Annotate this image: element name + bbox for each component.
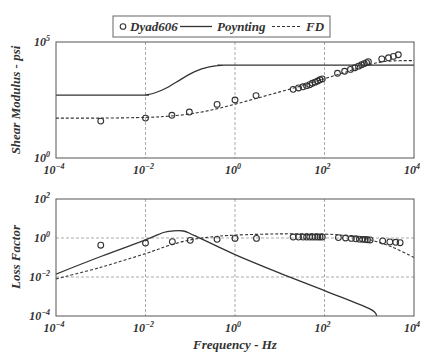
poynting-curve bbox=[56, 231, 377, 316]
x-tick-label: 10−2 bbox=[133, 162, 154, 177]
x-tick-labels: 10−410−2100102104 bbox=[44, 162, 420, 177]
legend-label-dyad606: Dyad606 bbox=[129, 19, 178, 34]
x-tick-label: 10−4 bbox=[44, 320, 65, 335]
x-tick-label: 104 bbox=[404, 320, 420, 335]
y-tick-label: 100 bbox=[34, 230, 50, 245]
data-point-marker bbox=[98, 118, 104, 124]
y-tick-label: 102 bbox=[34, 191, 50, 206]
y-tick-label: 105 bbox=[34, 34, 50, 49]
legend: Dyad606 Poynting FD bbox=[113, 16, 330, 37]
data-point-marker bbox=[214, 102, 220, 108]
y-axis-title: Loss Factor bbox=[8, 224, 23, 290]
data-point-marker bbox=[379, 56, 385, 62]
x-tick-label: 10−2 bbox=[133, 320, 154, 335]
data-point-marker bbox=[98, 242, 104, 248]
data-point-marker bbox=[186, 109, 192, 115]
grid-lines bbox=[146, 42, 325, 158]
figure: Dyad606 Poynting FD 105100 10−410−210010… bbox=[0, 0, 440, 364]
data-point-marker bbox=[169, 112, 175, 118]
x-tick-label: 104 bbox=[404, 162, 420, 177]
data-point-marker bbox=[387, 239, 393, 245]
y-tick-label: 10−2 bbox=[29, 269, 50, 284]
x-tick-label: 100 bbox=[225, 320, 241, 335]
x-tick-label: 102 bbox=[315, 162, 331, 177]
x-tick-label: 100 bbox=[225, 162, 241, 177]
data-point-marker bbox=[253, 93, 259, 99]
grid-lines bbox=[56, 199, 414, 316]
data-point-marker bbox=[335, 70, 341, 76]
curves bbox=[56, 231, 414, 316]
x-tick-labels: 10−410−2100102104 bbox=[44, 320, 420, 335]
data-point-marker bbox=[380, 238, 386, 244]
data-point-marker bbox=[254, 235, 260, 241]
data-markers bbox=[98, 52, 401, 124]
legend-label-fd: FD bbox=[305, 19, 325, 34]
data-point-marker bbox=[335, 235, 341, 241]
data-point-marker bbox=[214, 236, 220, 242]
y-tick-labels: 10210010−210−4 bbox=[29, 191, 50, 323]
data-point-marker bbox=[169, 239, 175, 245]
loss-factor-plot: 10210010−210−4 10−410−2100102104 Loss Fa… bbox=[8, 191, 420, 352]
x-tick-label: 10−4 bbox=[44, 162, 65, 177]
x-axis-title: Frequency - Hz bbox=[192, 337, 278, 352]
legend-label-poynting: Poynting bbox=[217, 19, 266, 34]
data-markers bbox=[98, 234, 403, 248]
y-tick-labels: 105100 bbox=[34, 34, 50, 165]
x-tick-label: 102 bbox=[315, 320, 331, 335]
y-axis-title: Shear Modulus - psi bbox=[8, 45, 23, 154]
shear-modulus-plot: 105100 10−410−2100102104 Shear Modulus -… bbox=[8, 34, 420, 177]
